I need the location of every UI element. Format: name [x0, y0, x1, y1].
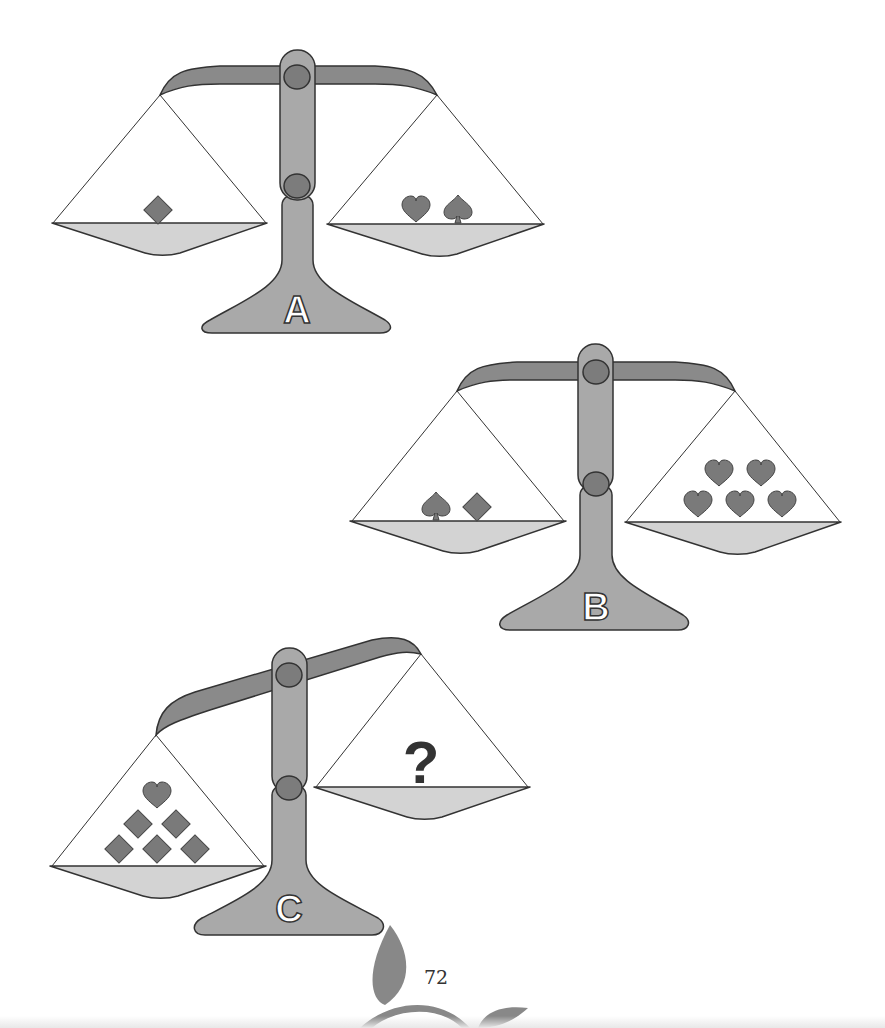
diamond-icon: [143, 835, 171, 863]
heart-icon: [402, 196, 430, 222]
scale-b-bottom-pivot: [583, 472, 609, 496]
page-number: 72: [424, 966, 448, 988]
scale-c-label: C: [275, 888, 302, 930]
scale-a-top-pivot: [284, 65, 310, 89]
scale-c-right-pan: ?: [314, 654, 530, 819]
scale-c-bottom-pivot: [276, 776, 302, 800]
bottom-edge: [0, 1016, 885, 1028]
heart-icon: [747, 460, 775, 486]
diamond-icon: [162, 810, 190, 838]
scale-a-left-pan: [52, 95, 267, 255]
spade-icon: [422, 492, 450, 520]
scale-c-top-pivot: [276, 663, 302, 687]
scale-b-label: B: [582, 586, 609, 628]
scale-b-top-pivot: [583, 360, 609, 384]
diamond-icon: [124, 810, 152, 838]
heart-icon: [684, 491, 712, 517]
scale-b: B: [350, 344, 841, 630]
diamond-icon: [463, 493, 491, 521]
diamond-icon: [181, 835, 209, 863]
spade-icon: [444, 195, 472, 223]
heart-icon: [726, 491, 754, 517]
scale-a-bottom-pivot: [284, 174, 310, 198]
question-mark: ?: [403, 729, 440, 796]
heart-icon: [143, 782, 171, 808]
scale-a: A: [52, 50, 544, 333]
scale-b-left-pan: [350, 391, 566, 553]
diamond-icon: [105, 835, 133, 863]
heart-icon: [705, 460, 733, 486]
scale-c-left-pan: [50, 735, 266, 898]
diamond-icon: [144, 196, 172, 224]
heart-icon: [768, 491, 796, 517]
scale-b-right-pan: [625, 391, 841, 554]
scale-a-right-pan: [327, 95, 544, 256]
scale-a-label: A: [283, 289, 310, 331]
scale-c: ? C: [50, 638, 530, 935]
